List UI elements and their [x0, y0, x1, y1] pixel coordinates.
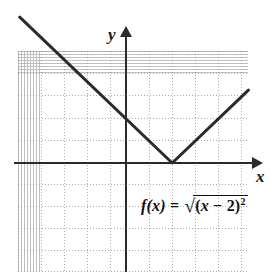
- equation-number: 2: [227, 197, 235, 214]
- equation-equals: =: [170, 197, 179, 214]
- equation-argument: (x): [147, 197, 166, 214]
- equation-radicand: (x − 2)2: [193, 195, 247, 215]
- function-curve-path: [20, 17, 249, 163]
- equation-label: f(x) = √(x − 2)2: [141, 195, 248, 217]
- equation-radical: √(x − 2)2: [184, 195, 248, 217]
- equation-variable: x: [201, 197, 209, 214]
- equation-exponent: 2: [240, 196, 245, 207]
- function-curve: [0, 0, 275, 278]
- graph-figure: y x f(x) = √(x − 2)2: [0, 0, 275, 278]
